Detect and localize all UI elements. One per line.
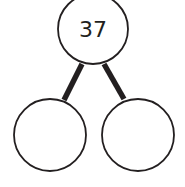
part-circle-right (102, 99, 174, 171)
number-bond-diagram: 37 (0, 0, 185, 187)
connector-left (64, 64, 82, 100)
whole-value: 37 (79, 17, 107, 42)
part-circle-left (14, 99, 86, 171)
connector-right (104, 64, 124, 99)
